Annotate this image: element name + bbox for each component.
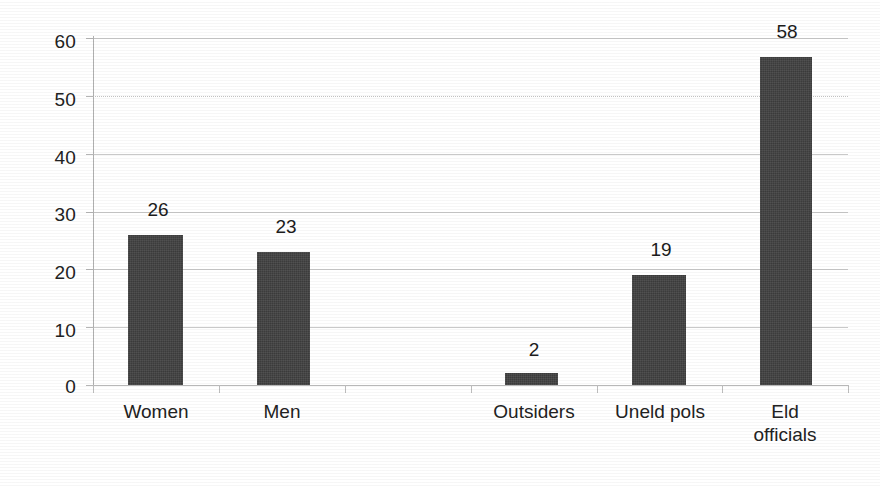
x-tick-3 xyxy=(471,385,472,393)
x-tick-2 xyxy=(345,385,346,393)
bar-men xyxy=(257,252,310,385)
y-axis-label-40: 40 xyxy=(28,148,76,167)
y-tick-30 xyxy=(86,212,94,213)
bar-outsiders xyxy=(505,373,558,385)
y-axis-label-30: 30 xyxy=(28,205,76,224)
category-label-outsiders: Outsiders xyxy=(471,400,597,423)
bar-eld-officials xyxy=(760,57,812,385)
bar-women xyxy=(128,235,183,385)
y-axis-label-20: 20 xyxy=(28,263,76,282)
bar-uneld-pols xyxy=(632,275,686,385)
bar-value-women: 26 xyxy=(98,200,218,219)
category-label-uneld-pols: Uneld pols xyxy=(597,400,723,423)
y-tick-20 xyxy=(86,269,94,270)
gridline-20 xyxy=(93,269,848,270)
category-label-men: Men xyxy=(219,400,345,423)
bar-value-outsiders: 2 xyxy=(474,340,594,359)
gridline-40 xyxy=(93,154,848,155)
y-axis-label-50: 50 xyxy=(28,90,76,109)
x-tick-5 xyxy=(722,385,723,393)
category-label-women: Women xyxy=(93,400,219,423)
y-tick-60 xyxy=(86,38,94,39)
gridline-10 xyxy=(93,327,848,328)
y-axis-labels: 60 50 40 30 20 10 0 xyxy=(24,0,76,486)
bar-chart: 60 50 40 30 20 10 0 26 23 2 19 58 Women … xyxy=(0,0,880,486)
y-axis-label-0: 0 xyxy=(28,377,76,396)
y-axis-label-10: 10 xyxy=(28,321,76,340)
bar-value-eld-officials: 58 xyxy=(727,22,847,41)
bar-value-uneld-pols: 19 xyxy=(601,240,721,259)
x-tick-0 xyxy=(93,385,94,393)
y-tick-10 xyxy=(86,327,94,328)
bar-value-men: 23 xyxy=(226,217,346,236)
category-label-eld-officials: Eld officials xyxy=(722,400,848,446)
x-tick-6 xyxy=(848,385,849,393)
gridline-50 xyxy=(93,96,848,97)
y-tick-40 xyxy=(86,154,94,155)
y-tick-50 xyxy=(86,96,94,97)
x-tick-1 xyxy=(219,385,220,393)
x-tick-4 xyxy=(597,385,598,393)
y-axis-label-60: 60 xyxy=(28,32,76,51)
